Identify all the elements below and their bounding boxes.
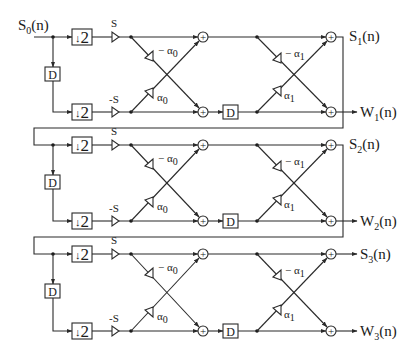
adder-symbol: + (328, 106, 334, 118)
gain-label: S (111, 125, 117, 137)
adder-symbol: + (200, 325, 206, 337)
adder-symbol: + (328, 31, 334, 43)
output-w2: W2(n) (360, 213, 397, 232)
adder-symbol: + (328, 215, 334, 227)
stage-1: D ↓2 ↓2 S -S − α0 α0 + + D (34, 17, 397, 145)
gain-triangle (145, 268, 153, 278)
adder-symbol: + (200, 139, 206, 151)
gain-label: − α1 (285, 155, 305, 170)
gain-label: − α1 (285, 264, 305, 279)
gain-label: S (111, 17, 117, 29)
gain-label: α0 (157, 310, 168, 325)
delay-label: D (48, 176, 57, 190)
output-w1: W1(n) (360, 104, 397, 123)
gain-amp (112, 249, 119, 259)
gain-label: -S (109, 312, 119, 324)
gain-label: − α0 (158, 44, 178, 59)
gain-label: α1 (284, 89, 295, 104)
adder-symbol: + (200, 215, 206, 227)
gain-amp (112, 326, 119, 336)
adder-symbol: + (328, 325, 334, 337)
delay-label: D (48, 68, 57, 82)
output-s2: S2(n) (349, 136, 380, 155)
gain-label: -S (109, 202, 119, 214)
adder-symbol: + (200, 248, 206, 260)
output-s3: S3(n) (360, 246, 391, 265)
lattice-filter-diagram: S0(n) D ↓2 ↓2 S -S − α0 α0 + + (0, 0, 408, 358)
output-w3: W3(n) (360, 323, 397, 342)
gain-label: − α1 (285, 47, 305, 62)
gain-label: − α0 (158, 261, 178, 276)
gain-triangle (145, 307, 153, 317)
adder-symbol: + (200, 31, 206, 43)
gain-label: α0 (157, 200, 168, 215)
delay-label: D (226, 325, 235, 339)
gain-amp (112, 140, 119, 150)
delay-label: D (48, 285, 57, 299)
gain-label: α1 (284, 308, 295, 323)
output-s1: S1(n) (349, 28, 380, 47)
input-label: S0(n) (18, 17, 49, 36)
gain-label: α1 (284, 198, 295, 213)
gain-label: -S (109, 93, 119, 105)
adder-symbol: + (328, 139, 334, 151)
delay-label: D (226, 106, 235, 120)
gain-amp (112, 32, 119, 42)
adder-symbol: + (200, 106, 206, 118)
stage-2: D ↓2 ↓2 S -S − α0 α0 + + D (34, 125, 397, 254)
adder-symbol: + (328, 248, 334, 260)
gain-label: α0 (157, 91, 168, 106)
gain-amp (112, 107, 119, 117)
gain-label: S (111, 234, 117, 246)
gain-label: − α0 (158, 152, 178, 167)
gain-amp (112, 216, 119, 226)
delay-label: D (226, 215, 235, 229)
stage-3: D ↓2 ↓2 S -S − α0 α0 + + D (45, 234, 397, 342)
